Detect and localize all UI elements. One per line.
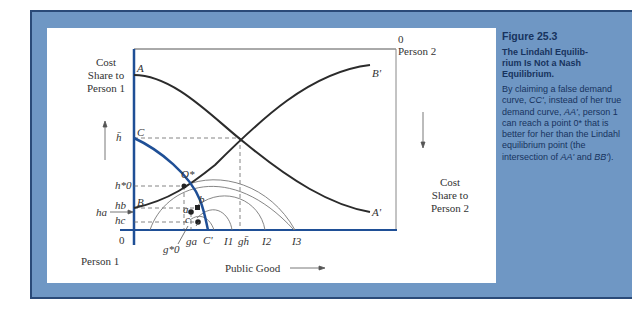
label-A-prime: A'	[372, 206, 381, 219]
tick-ha: ha	[96, 206, 107, 219]
tick-I2: I2	[262, 235, 271, 248]
x-axis-label: Public Good	[225, 262, 280, 275]
curve-BB-prime	[134, 65, 370, 208]
figure-caption: Figure 25.3 The Lindahl Equilib- rium Is…	[502, 30, 630, 163]
point-O-star	[182, 184, 187, 189]
figure-title-line1: The Lindahl Equilib-	[502, 47, 630, 58]
right-axis-label-line1: Cost	[420, 176, 480, 189]
figure-title-line2: rium Is Not a Nash	[502, 58, 630, 69]
label-C: C	[137, 126, 144, 139]
person2-label: Person 2	[398, 45, 436, 58]
figure-title-line3: Equilibrium.	[502, 69, 630, 80]
figure-number: Figure 25.3	[502, 30, 630, 42]
left-axis-label-line3: Person 1	[76, 82, 136, 95]
right-arrow-head	[319, 266, 325, 270]
right-axis-label-line2: Share to	[420, 189, 480, 202]
label-C-prime: C'	[203, 234, 213, 247]
left-axis-label-line2: Share to	[76, 69, 136, 82]
person1-label: Person 1	[81, 255, 119, 268]
right-axis-label: Cost Share to Person 2	[420, 176, 480, 215]
desc-cc: CC'	[529, 95, 544, 105]
tick-g0-star: g*0	[163, 243, 180, 256]
label-A: A	[137, 62, 144, 75]
desc-part-4: and	[574, 152, 594, 162]
left-axis-label: Cost Share to Person 1	[76, 56, 136, 95]
tick-hb: hb	[115, 199, 126, 212]
tick-I3: I3	[292, 235, 301, 248]
desc-aa: AA'	[564, 107, 578, 117]
tick-h-bar: h̄	[116, 131, 122, 144]
desc-aa-2: AA'	[561, 152, 575, 162]
right-axis-label-line3: Person 2	[420, 202, 480, 215]
indifference-curve-inner	[190, 216, 214, 230]
tick-ga: ga	[186, 235, 197, 248]
label-B-prime: B'	[372, 67, 381, 80]
label-b: b	[199, 193, 205, 206]
ha-arrow-head	[128, 210, 133, 214]
tick-h0-star: h*0	[115, 179, 132, 192]
indifference-curve-i1	[197, 210, 232, 230]
curve-AA-prime	[134, 75, 370, 212]
label-c: c	[185, 213, 190, 226]
tick-g-h: gh̄	[238, 235, 249, 248]
desc-bb: BB'	[594, 152, 608, 162]
label-B: B	[137, 196, 144, 209]
figure-description: By claiming a false demand curve, CC', i…	[502, 84, 630, 163]
desc-part-5: ).	[608, 152, 614, 162]
figure-title: The Lindahl Equilib- rium Is Not a Nash …	[502, 47, 630, 80]
up-arrow-head	[103, 121, 107, 127]
tick-I1: I1	[224, 235, 233, 248]
tick-hc: hc	[115, 214, 125, 227]
label-O-star: O*	[181, 168, 194, 181]
left-axis-label-line1: Cost	[76, 56, 136, 69]
down-arrow-head	[421, 142, 425, 148]
origin-person1: 0	[119, 234, 125, 247]
